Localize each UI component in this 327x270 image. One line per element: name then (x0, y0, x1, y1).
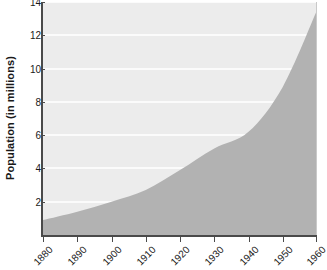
x-axis-ticks: 188018901900191019201930194019501960 (0, 0, 327, 270)
x-tick-mark (146, 237, 147, 242)
x-tick-label: 1960 (304, 244, 327, 268)
x-tick-label: 1890 (66, 244, 90, 268)
x-tick-label: 1910 (134, 244, 158, 268)
x-tick-label: 1880 (31, 244, 55, 268)
x-tick-mark (214, 237, 215, 242)
x-tick-mark (43, 237, 44, 242)
population-area-chart: Population (in millions) 2468101214 1880… (0, 0, 327, 270)
x-tick-mark (283, 237, 284, 242)
x-tick-label: 1940 (237, 244, 261, 268)
x-tick-label: 1930 (203, 244, 227, 268)
x-tick-label: 1920 (168, 244, 192, 268)
x-tick-label: 1900 (100, 244, 124, 268)
x-tick-label: 1950 (271, 244, 295, 268)
x-tick-mark (77, 237, 78, 242)
x-tick-mark (316, 237, 317, 242)
x-tick-mark (249, 237, 250, 242)
x-tick-mark (180, 237, 181, 242)
x-tick-mark (112, 237, 113, 242)
